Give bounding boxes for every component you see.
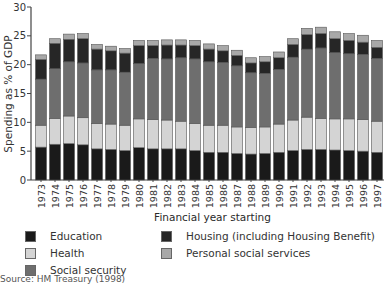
- legend-label: Health: [50, 247, 84, 259]
- legend-item-health: Health: [25, 247, 84, 259]
- legend-item-education: Education: [25, 230, 102, 242]
- legend-label: Housing (including Housing Benefit): [186, 230, 375, 242]
- legend-item-personal-social-services: Personal social services: [161, 247, 310, 259]
- legend-item-housing: Housing (including Housing Benefit): [161, 230, 375, 242]
- swatch-pss-icon: [161, 248, 172, 259]
- legend-label: Education: [50, 230, 102, 242]
- legend-label: Personal social services: [186, 247, 310, 259]
- swatch-housing-icon: [161, 231, 172, 242]
- swatch-education-icon: [25, 231, 36, 242]
- swatch-health-icon: [25, 248, 36, 259]
- source-note: Source: HM Treasury (1998): [0, 274, 125, 284]
